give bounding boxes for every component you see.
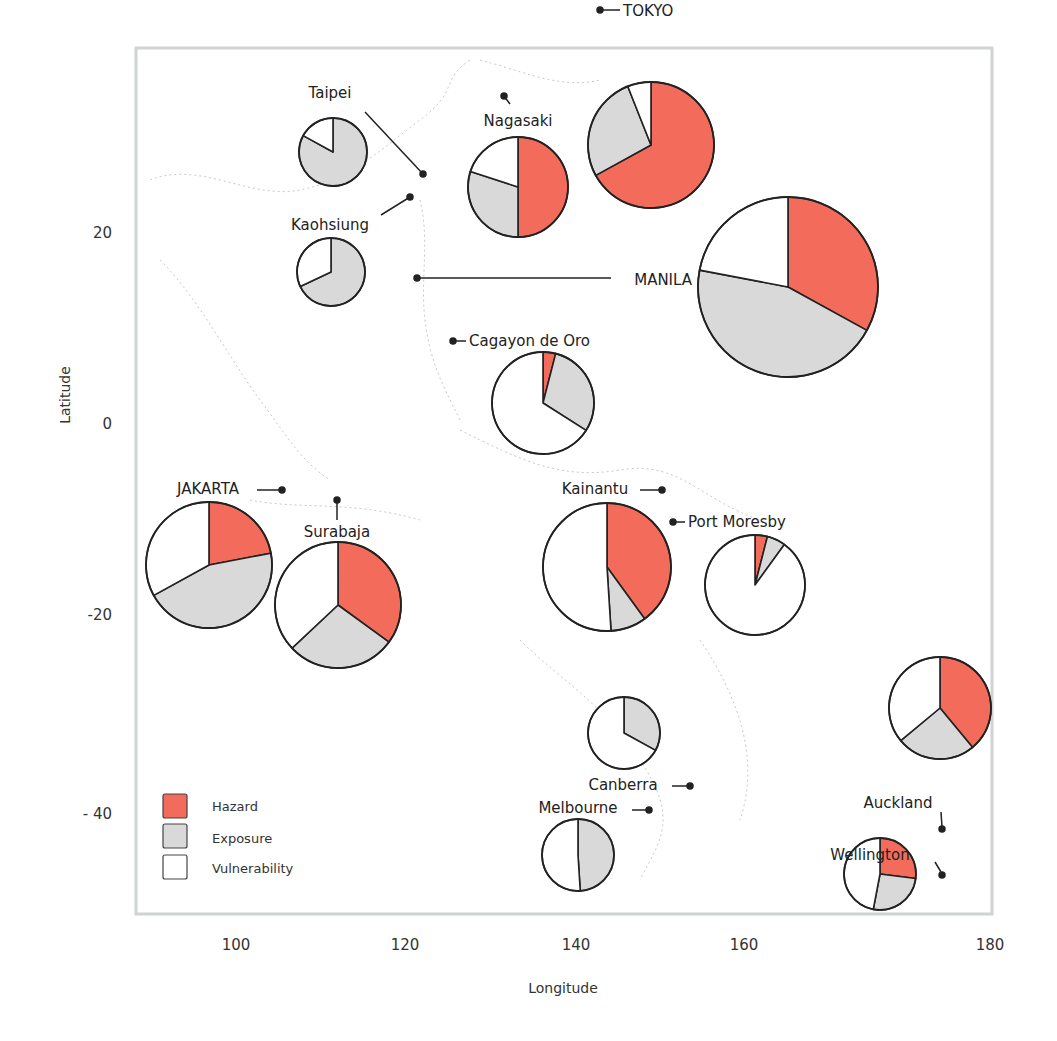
pie-taipei (299, 118, 367, 186)
city-label: Cagayon de Oro (469, 332, 590, 350)
x-axis-ticks: 100120140160180 (222, 936, 1005, 954)
y-tick-label: -20 (88, 606, 113, 624)
city-label: Kaohsiung (291, 216, 369, 234)
city-label: Auckland (863, 794, 932, 812)
y-tick-label: 0 (102, 415, 112, 433)
x-tick-label: 180 (976, 936, 1005, 954)
x-tick-label: 160 (730, 936, 759, 954)
city-label: Canberra (588, 776, 657, 794)
x-tick-label: 100 (222, 936, 251, 954)
city-label: Surabaja (304, 523, 370, 541)
city-label: Wellington (830, 846, 909, 864)
pie-kaohsiung (297, 238, 365, 306)
pie-kainantu (543, 503, 671, 631)
city-label: Nagasaki (484, 112, 553, 130)
pie-port-moresby (705, 535, 805, 635)
legend-label-vulnerability: Vulnerability (212, 861, 294, 876)
city-label: Melbourne (538, 799, 617, 817)
y-axis-label: Latitude (57, 366, 73, 424)
legend-swatch-hazard (163, 794, 187, 818)
pie-auckland (889, 657, 991, 759)
city-label: MANILA (634, 271, 693, 289)
legend-label-hazard: Hazard (212, 799, 258, 814)
city-label: JAKARTA (176, 480, 240, 498)
legend-swatch-vulnerability (163, 855, 187, 879)
pie-melbourne (542, 819, 614, 891)
y-tick-label: - 40 (83, 805, 112, 823)
y-tick-label: 20 (93, 224, 112, 242)
pie-map-chart: TOKYOTaipeiNagasakiKaohsiungMANILACagayo… (0, 0, 1057, 1041)
x-axis-label: Longitude (528, 980, 598, 996)
pie-tokyo (588, 82, 714, 208)
pie-canberra (588, 697, 660, 769)
city-label: TOKYO (622, 2, 673, 20)
x-tick-label: 120 (391, 936, 420, 954)
city-label: Port Moresby (688, 513, 786, 531)
legend-label-exposure: Exposure (212, 831, 272, 846)
pie-manila (698, 197, 878, 377)
city-label: Taipei (308, 84, 352, 102)
y-axis-ticks: 200-20- 40 (83, 224, 112, 823)
legend-swatch-exposure (163, 824, 187, 848)
city-label: Kainantu (562, 480, 629, 498)
pie-jakarta (146, 502, 272, 628)
pie-nagasaki (468, 137, 568, 237)
pie-surabaja (275, 542, 401, 668)
x-tick-label: 140 (562, 936, 591, 954)
pie-cagayon-de-oro (492, 352, 594, 454)
